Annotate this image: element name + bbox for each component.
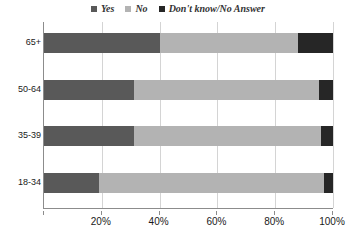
bar-segment bbox=[160, 33, 299, 53]
x-tickmark-60 bbox=[216, 211, 217, 215]
y-axis-label-65-: 65+ bbox=[0, 38, 41, 47]
legend-swatch-dont-know bbox=[159, 6, 165, 12]
legend-swatch-yes bbox=[91, 6, 97, 12]
legend-item-dont-know: Don't know/No Answer bbox=[159, 4, 265, 14]
y-axis-label-50-64: 50-64 bbox=[0, 85, 41, 94]
legend-item-yes: Yes bbox=[91, 4, 114, 14]
legend-item-no: No bbox=[125, 4, 147, 14]
bar-row bbox=[44, 173, 333, 193]
plot-area bbox=[43, 22, 333, 209]
bar-segment bbox=[324, 173, 333, 193]
x-axis-label-100: 100% bbox=[319, 216, 345, 227]
x-tickmark-0 bbox=[43, 211, 44, 215]
y-axis-category-labels: 65+50-6435-3918-34 bbox=[0, 22, 41, 208]
chart-legend: Yes No Don't know/No Answer bbox=[0, 1, 356, 17]
bar-segment bbox=[44, 80, 134, 100]
x-tickmark-40 bbox=[159, 211, 160, 215]
x-axis-tick-labels: 20%40%60%80%100% bbox=[43, 211, 332, 227]
x-tickmark-20 bbox=[101, 211, 102, 215]
legend-swatch-no bbox=[125, 6, 131, 12]
bar-row bbox=[44, 126, 333, 146]
legend-label-dont-know: Don't know/No Answer bbox=[169, 4, 265, 14]
bar-segment bbox=[319, 80, 333, 100]
x-axis-label-20: 20% bbox=[91, 216, 111, 227]
bar-segment bbox=[44, 33, 160, 53]
bar-series-container bbox=[44, 22, 333, 208]
x-tickmark-100 bbox=[332, 211, 333, 215]
legend-label-no: No bbox=[135, 4, 147, 14]
y-axis-label-35-39: 35-39 bbox=[0, 131, 41, 140]
bar-segment bbox=[44, 126, 134, 146]
bar-segment bbox=[321, 126, 333, 146]
bar-row bbox=[44, 33, 333, 53]
bar-segment bbox=[99, 173, 324, 193]
x-tickmark-80 bbox=[274, 211, 275, 215]
x-axis-label-40: 40% bbox=[149, 216, 169, 227]
gridline-100 bbox=[333, 22, 334, 208]
bar-row bbox=[44, 80, 333, 100]
stacked-bar-chart: Yes No Don't know/No Answer 65+50-6435-3… bbox=[0, 0, 356, 230]
bar-segment bbox=[134, 80, 319, 100]
y-axis-label-18-34: 18-34 bbox=[0, 178, 41, 187]
bar-segment bbox=[134, 126, 322, 146]
x-axis-label-80: 80% bbox=[264, 216, 284, 227]
legend-label-yes: Yes bbox=[101, 4, 114, 14]
bar-segment bbox=[44, 173, 99, 193]
bar-segment bbox=[298, 33, 333, 53]
x-axis-label-60: 60% bbox=[206, 216, 226, 227]
